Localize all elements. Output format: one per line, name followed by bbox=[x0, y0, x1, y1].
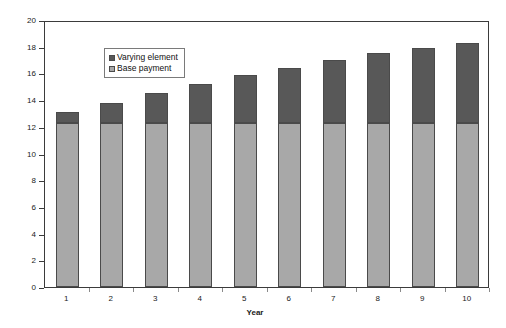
stacked-bar bbox=[234, 75, 257, 287]
y-axis-tick: 18 bbox=[0, 43, 44, 53]
y-axis-tick-label: 4 bbox=[32, 230, 36, 240]
y-axis-tick-label: 18 bbox=[27, 43, 36, 53]
y-axis-tick-label: 10 bbox=[27, 150, 36, 160]
y-axis-tick-label: 0 bbox=[32, 283, 36, 293]
x-axis-tick-label: 4 bbox=[180, 294, 220, 303]
legend-item-label: Base payment bbox=[117, 63, 171, 74]
y-axis-tick: 14 bbox=[0, 96, 44, 106]
x-axis-tick-label: 7 bbox=[313, 294, 353, 303]
bar-segment-base-payment bbox=[100, 123, 123, 287]
bar-segment-varying-element bbox=[100, 103, 123, 123]
chart-screenshot: 02468101214161820 Cash flow value Varyin… bbox=[0, 0, 506, 328]
y-axis-tick: 10 bbox=[0, 150, 44, 160]
y-axis-tick: 12 bbox=[0, 123, 44, 133]
x-axis-tick-label: 10 bbox=[447, 294, 487, 303]
stacked-bar bbox=[323, 60, 346, 287]
legend-item-label: Varying element bbox=[117, 52, 178, 63]
stacked-bar bbox=[56, 112, 79, 287]
bar-segment-varying-element bbox=[145, 93, 168, 122]
legend-item: Base payment bbox=[109, 63, 178, 74]
x-axis-tick-label: 3 bbox=[135, 294, 175, 303]
y-axis-tick-label: 2 bbox=[32, 256, 36, 266]
x-axis-tick-label: 2 bbox=[91, 294, 131, 303]
x-axis: Year 12345678910 bbox=[44, 288, 489, 328]
x-axis-tick-mark bbox=[356, 288, 357, 292]
y-axis-tick-label: 16 bbox=[27, 69, 36, 79]
y-axis-tick-label: 14 bbox=[27, 96, 36, 106]
x-axis-tick-mark bbox=[489, 288, 490, 292]
bar-segment-base-payment bbox=[145, 123, 168, 287]
legend-swatch-icon bbox=[109, 55, 115, 61]
y-axis-tick-label: 8 bbox=[32, 176, 36, 186]
bar-segment-varying-element bbox=[56, 112, 79, 123]
chart-legend: Varying elementBase payment bbox=[104, 48, 185, 78]
y-axis-tick: 2 bbox=[0, 256, 44, 266]
bar-segment-varying-element bbox=[367, 53, 390, 122]
bar-segment-varying-element bbox=[456, 43, 479, 123]
plot-area: Varying elementBase payment bbox=[44, 21, 489, 288]
bar-segment-varying-element bbox=[189, 84, 212, 123]
stacked-bar bbox=[100, 103, 123, 287]
y-axis: 02468101214161820 bbox=[0, 0, 44, 328]
bar-segment-base-payment bbox=[412, 123, 435, 287]
x-axis-tick-label: 8 bbox=[358, 294, 398, 303]
bar-segment-varying-element bbox=[234, 75, 257, 123]
x-axis-title: Year bbox=[225, 308, 285, 317]
x-axis-tick-mark bbox=[445, 288, 446, 292]
stacked-bar bbox=[145, 93, 168, 287]
y-axis-tick: 4 bbox=[0, 230, 44, 240]
bar-segment-base-payment bbox=[278, 123, 301, 287]
bar-segment-varying-element bbox=[323, 60, 346, 123]
stacked-bar bbox=[278, 68, 301, 287]
x-axis-tick-label: 6 bbox=[269, 294, 309, 303]
legend-swatch-icon bbox=[109, 66, 115, 72]
x-axis-tick-mark bbox=[178, 288, 179, 292]
y-axis-tick-label: 12 bbox=[27, 123, 36, 133]
legend-item: Varying element bbox=[109, 52, 178, 63]
bar-segment-base-payment bbox=[234, 123, 257, 287]
y-axis-tick: 20 bbox=[0, 16, 44, 26]
y-axis-tick: 16 bbox=[0, 69, 44, 79]
y-axis-tick-label: 20 bbox=[27, 16, 36, 26]
bar-segment-base-payment bbox=[456, 123, 479, 287]
bar-segment-base-payment bbox=[367, 123, 390, 287]
y-axis-tick-label: 6 bbox=[32, 203, 36, 213]
x-axis-tick-mark bbox=[222, 288, 223, 292]
y-axis-tick: 6 bbox=[0, 203, 44, 213]
y-axis-tick: 0 bbox=[0, 283, 44, 293]
stacked-bar bbox=[412, 48, 435, 287]
stacked-bar bbox=[456, 43, 479, 287]
stacked-bar bbox=[189, 84, 212, 287]
x-axis-tick-mark bbox=[133, 288, 134, 292]
x-axis-tick-mark bbox=[400, 288, 401, 292]
bar-segment-base-payment bbox=[323, 123, 346, 287]
bar-segment-varying-element bbox=[278, 68, 301, 123]
bar-segment-varying-element bbox=[412, 48, 435, 123]
bar-segment-base-payment bbox=[56, 123, 79, 287]
x-axis-tick-mark bbox=[89, 288, 90, 292]
x-axis-tick-mark bbox=[311, 288, 312, 292]
bar-segment-base-payment bbox=[189, 123, 212, 287]
stacked-bar bbox=[367, 53, 390, 287]
x-axis-tick-label: 1 bbox=[46, 294, 86, 303]
x-axis-tick-mark bbox=[267, 288, 268, 292]
y-axis-tick: 8 bbox=[0, 176, 44, 186]
x-axis-tick-label: 9 bbox=[402, 294, 442, 303]
x-axis-tick-label: 5 bbox=[224, 294, 264, 303]
